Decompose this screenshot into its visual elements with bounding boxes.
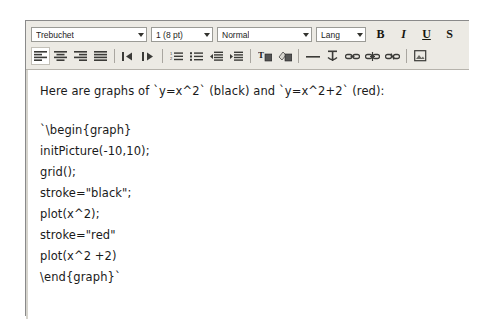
text-color-button[interactable]: T [255,47,274,65]
indent-button[interactable] [227,47,246,65]
font-size-value: 1 (8 pt) [156,28,183,42]
outdent-icon [210,51,223,62]
ordered-list-button[interactable]: 1 2 [167,47,186,65]
rich-text-editor-window: Trebuchet 1 (8 pt) Normal Lang B I U S [25,20,469,316]
unlink-button[interactable] [383,47,402,65]
toolbar-separator [114,49,115,63]
document-content-area[interactable]: Here are graphs of `y=x^2` (black) and `… [26,70,469,319]
toolbar-row-formatting: Trebuchet 1 (8 pt) Normal Lang B I U S [26,24,469,45]
paragraph-style-select[interactable]: Normal [217,27,312,42]
toolbar-row-paragraph: 1 2 [26,45,469,67]
align-justify-button[interactable] [91,47,110,65]
paragraph-style-value: Normal [222,28,249,42]
unordered-list-button[interactable] [187,47,206,65]
anchor-icon [326,50,339,62]
document-line: Here are graphs of `y=x^2` (black) and `… [40,81,469,105]
unlink-icon [385,51,400,62]
document-line: stroke="red" [40,225,469,246]
outdent-button[interactable] [207,47,226,65]
direction-rtl-icon [142,51,155,62]
text-cursor [26,70,28,319]
insert-link-icon [345,51,360,62]
direction-rtl-button[interactable] [139,47,158,65]
chevron-down-icon [303,33,309,37]
toolbar-separator [406,49,407,63]
indent-icon [230,51,243,62]
align-center-button[interactable] [51,47,70,65]
svg-text:T: T [258,50,264,60]
text-color-icon: T [258,50,272,62]
strikethrough-button[interactable]: S [441,26,458,43]
align-justify-icon [94,51,107,62]
bold-button[interactable]: B [372,26,389,43]
insert-image-icon [414,50,427,62]
align-left-icon [34,51,47,62]
document-line: plot(x^2); [40,204,469,225]
align-center-icon [54,51,67,62]
unordered-list-icon [190,51,203,62]
insert-link-button[interactable] [343,47,362,65]
font-family-select[interactable]: Trebuchet [31,27,147,42]
chevron-down-icon [204,33,210,37]
document-line: stroke="black"; [40,183,469,204]
document-line: \end{graph}` [40,267,469,288]
ordered-list-icon: 1 2 [170,51,183,62]
background-color-button[interactable] [275,47,294,65]
document-line: `\begin{graph} [40,120,469,141]
toolbar-separator [250,49,251,63]
edit-link-icon [365,51,380,62]
insert-image-button[interactable] [411,47,430,65]
edit-link-button[interactable] [363,47,382,65]
document-line: plot(x^2 +2) [40,246,469,267]
align-right-button[interactable] [71,47,90,65]
background-color-icon [278,50,292,62]
italic-button[interactable]: I [395,26,412,43]
document-line: initPicture(-10,10); [40,141,469,162]
align-left-button[interactable] [31,47,50,65]
font-size-select[interactable]: 1 (8 pt) [151,27,213,42]
horizontal-rule-button[interactable] [303,47,322,65]
anchor-button[interactable] [323,47,342,65]
language-select[interactable]: Lang [316,27,366,42]
editor-toolbar: Trebuchet 1 (8 pt) Normal Lang B I U S [26,21,469,70]
font-family-value: Trebuchet [36,28,74,42]
chevron-down-icon [138,33,144,37]
horizontal-rule-icon [306,51,320,62]
direction-ltr-button[interactable] [119,47,138,65]
language-value: Lang [321,28,340,42]
direction-ltr-icon [122,51,135,62]
chevron-down-icon [357,33,363,37]
document-line: grid(); [40,162,469,183]
align-right-icon [74,51,87,62]
svg-text:2: 2 [170,56,173,61]
toolbar-separator [298,49,299,63]
document-line [40,105,469,120]
toolbar-separator [162,49,163,63]
underline-button[interactable]: U [418,26,435,43]
